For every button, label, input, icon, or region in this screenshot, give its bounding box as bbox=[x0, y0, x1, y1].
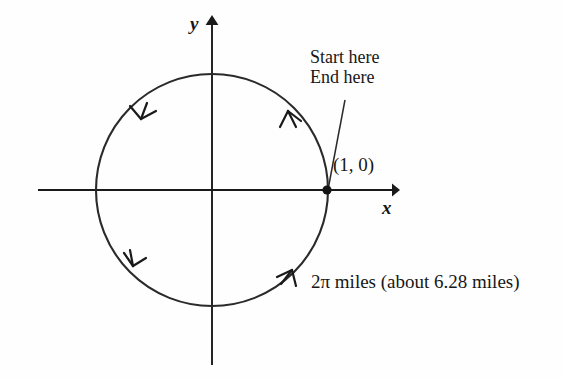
point-coordinate-label: (1, 0) bbox=[333, 155, 374, 175]
figure-canvas bbox=[0, 0, 563, 378]
unit-circle-figure: y x (1, 0) Start here End here 2π miles … bbox=[0, 0, 563, 378]
x-axis bbox=[38, 184, 400, 197]
x-axis-arrowhead bbox=[392, 184, 400, 197]
end-here-label: End here bbox=[310, 68, 379, 88]
y-axis-arrowhead bbox=[206, 15, 219, 25]
point-marker-1-0 bbox=[322, 185, 331, 194]
arc-length-annotation: 2π miles (about 6.28 miles) bbox=[311, 272, 520, 292]
x-axis-label: x bbox=[382, 198, 392, 218]
start-end-annotation: Start here End here bbox=[310, 48, 379, 88]
arrowhead-lower-left bbox=[124, 250, 146, 266]
y-axis-label: y bbox=[190, 14, 198, 34]
start-here-label: Start here bbox=[310, 48, 379, 68]
